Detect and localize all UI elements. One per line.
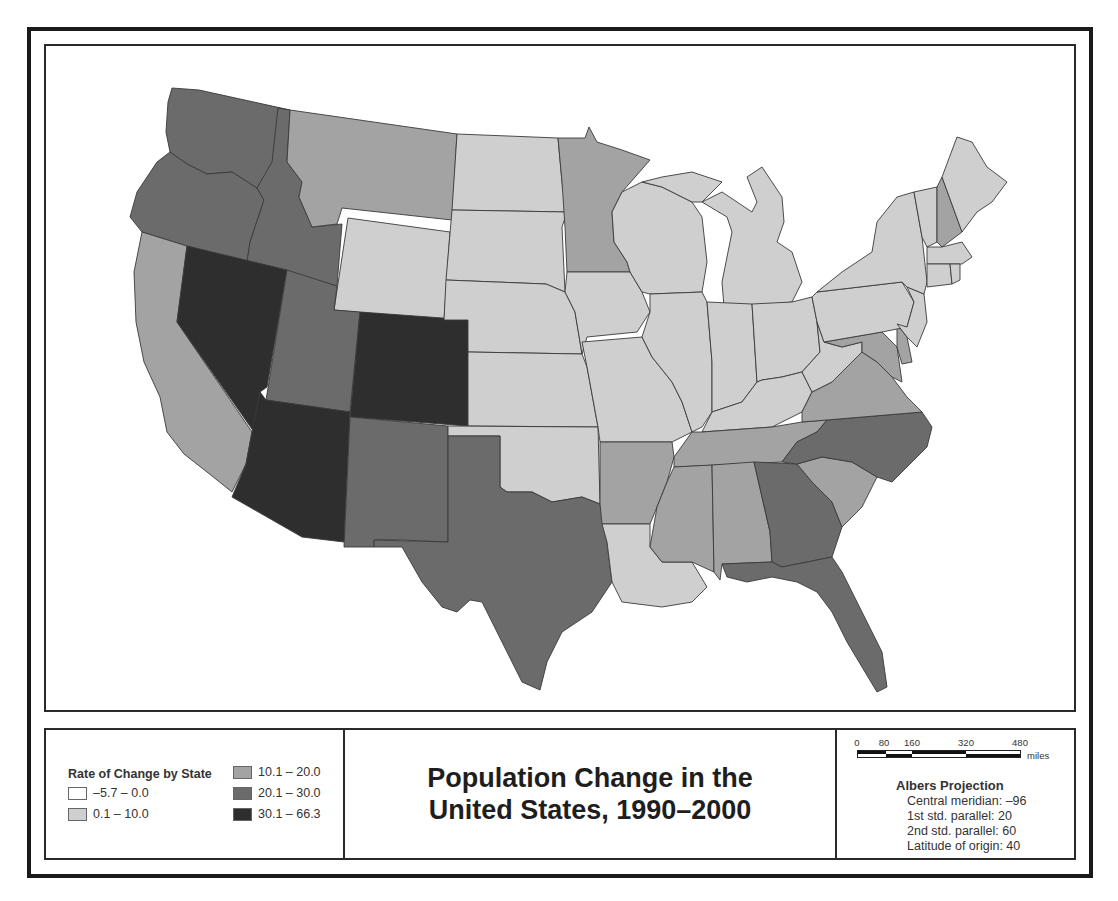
projection-title: Albers Projection xyxy=(896,778,1004,793)
projection-line: 1st std. parallel: 20 xyxy=(907,809,1012,823)
state-florida xyxy=(722,557,887,692)
state-new-york xyxy=(817,192,927,294)
legend-label: 10.1 – 20.0 xyxy=(258,765,321,779)
scale-bar xyxy=(857,750,1021,758)
legend-item: 10.1 – 20.0 xyxy=(233,765,321,779)
title-box: Population Change in the United States, … xyxy=(345,730,837,858)
footer-panel: Rate of Change by State –5.7 – 0.0 0.1 –… xyxy=(44,728,1076,860)
state-rhode-island xyxy=(950,264,960,284)
legend-label: –5.7 – 0.0 xyxy=(93,786,149,800)
state-wyoming xyxy=(334,218,450,320)
scale-tick-labels: 0 80 160 320 480 xyxy=(855,737,1055,749)
legend-swatch xyxy=(68,787,87,800)
legend-item: 30.1 – 66.3 xyxy=(233,807,321,821)
scale-tick: 480 xyxy=(1012,737,1028,748)
projection-line: 2nd std. parallel: 60 xyxy=(907,824,1016,838)
state-connecticut xyxy=(927,264,952,287)
state-new-mexico xyxy=(344,417,448,547)
legend-swatch xyxy=(233,808,252,821)
projection-line: Central meridian: –96 xyxy=(907,794,1027,808)
scale-and-projection: 0 80 160 320 480 miles Albers Projection… xyxy=(837,730,1074,858)
scale-tick: 0 xyxy=(854,737,859,748)
state-massachusetts xyxy=(927,242,972,264)
legend-label: 30.1 – 66.3 xyxy=(258,807,321,821)
legend-label: 20.1 – 30.0 xyxy=(258,786,321,800)
map-title-line-1: Population Change in the xyxy=(427,762,753,794)
legend: Rate of Change by State –5.7 – 0.0 0.1 –… xyxy=(46,730,345,858)
scale-unit: miles xyxy=(1027,750,1049,761)
legend-swatch xyxy=(233,787,252,800)
projection-line: Latitude of origin: 40 xyxy=(907,839,1020,853)
scale-tick: 80 xyxy=(879,737,890,748)
legend-label: 0.1 – 10.0 xyxy=(93,807,149,821)
legend-item: –5.7 – 0.0 xyxy=(68,786,149,800)
state-south-dakota xyxy=(446,210,567,292)
scale-tick: 160 xyxy=(904,737,920,748)
legend-swatch xyxy=(233,766,252,779)
map-panel xyxy=(44,44,1076,712)
map-title: Population Change in the United States, … xyxy=(427,762,753,826)
state-north-dakota xyxy=(452,134,567,212)
legend-title: Rate of Change by State xyxy=(68,767,212,781)
scale-tick: 320 xyxy=(958,737,974,748)
state-montana xyxy=(287,110,457,227)
legend-item: 0.1 – 10.0 xyxy=(68,807,149,821)
map-title-line-2: United States, 1990–2000 xyxy=(427,794,753,826)
legend-item: 20.1 – 30.0 xyxy=(233,786,321,800)
state-kansas xyxy=(468,352,598,427)
us-choropleth-map xyxy=(46,46,1074,710)
state-colorado xyxy=(350,312,470,426)
legend-swatch xyxy=(68,808,87,821)
